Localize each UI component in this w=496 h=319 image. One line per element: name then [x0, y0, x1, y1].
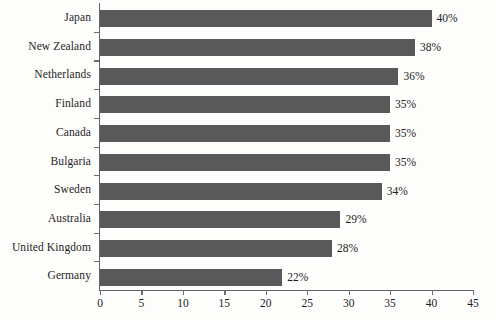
plot-area: 051015202530354045 40%38%36%35%35%35%34%…	[100, 3, 473, 290]
y-axis-tick	[94, 60, 99, 61]
bar-value-label: 28%	[332, 240, 358, 257]
bar	[100, 68, 398, 85]
y-axis-tick	[94, 118, 99, 119]
x-axis-tick	[183, 290, 184, 295]
x-axis-tick	[266, 290, 267, 295]
bar-value-label: 38%	[415, 39, 441, 56]
bar	[100, 269, 282, 286]
y-axis-tick	[94, 175, 99, 176]
bar-value-label: 35%	[390, 154, 416, 171]
x-axis-tick-label: 5	[139, 297, 145, 309]
bar-value-label: 40%	[432, 10, 458, 27]
x-axis-tick-label: 40	[426, 297, 438, 309]
x-axis-tick-label: 20	[260, 297, 272, 309]
bar	[100, 211, 340, 228]
category-label: New Zealand	[28, 32, 91, 61]
x-axis-line	[99, 290, 473, 291]
bar	[100, 183, 382, 200]
y-axis-tick	[94, 204, 99, 205]
x-axis-tick-label: 0	[97, 297, 103, 309]
category-label: Netherlands	[34, 60, 91, 89]
x-axis-tick	[390, 290, 391, 295]
category-label: Germany	[48, 261, 92, 290]
x-axis-tick	[224, 290, 225, 295]
x-axis-tick-label: 15	[219, 297, 231, 309]
category-axis-labels: JapanNew ZealandNetherlandsFinlandCanada…	[0, 3, 96, 290]
y-axis-tick	[94, 32, 99, 33]
x-axis-tick	[473, 290, 474, 295]
x-axis-tick	[141, 290, 142, 295]
category-label: Sweden	[54, 175, 91, 204]
bar	[100, 125, 390, 142]
y-axis-tick	[94, 233, 99, 234]
category-label: Japan	[64, 3, 91, 32]
bar-value-label: 29%	[340, 211, 366, 228]
x-axis-tick	[432, 290, 433, 295]
bar	[100, 240, 332, 257]
x-axis-tick	[349, 290, 350, 295]
category-label: Australia	[48, 204, 91, 233]
bar	[100, 39, 415, 56]
x-axis-tick-label: 30	[343, 297, 355, 309]
bar-value-label: 34%	[382, 183, 408, 200]
y-axis-tick	[94, 89, 99, 90]
x-axis-tick	[307, 290, 308, 295]
x-axis-tick-label: 25	[301, 297, 313, 309]
bar-chart: JapanNew ZealandNetherlandsFinlandCanada…	[0, 0, 496, 319]
x-axis-tick-label: 45	[467, 297, 479, 309]
bar-value-label: 35%	[390, 125, 416, 142]
bar	[100, 96, 390, 113]
y-axis-tick	[94, 261, 99, 262]
bar-value-label: 36%	[398, 68, 424, 85]
category-label: Bulgaria	[51, 147, 91, 176]
x-axis-tick-label: 10	[177, 297, 189, 309]
y-axis-tick	[94, 147, 99, 148]
x-axis-tick-label: 35	[384, 297, 396, 309]
category-label: United Kingdom	[12, 233, 91, 262]
bar-value-label: 35%	[390, 96, 416, 113]
bar-value-label: 22%	[282, 269, 308, 286]
bar	[100, 154, 390, 171]
bar	[100, 10, 432, 27]
x-axis-tick	[100, 290, 101, 295]
category-label: Canada	[56, 118, 91, 147]
category-label: Finland	[55, 89, 91, 118]
